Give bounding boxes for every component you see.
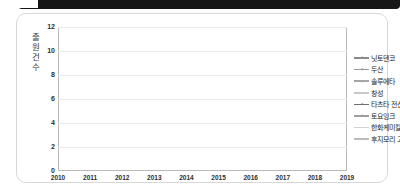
- legend-item-3[interactable]: 솔루에타: [354, 75, 400, 87]
- y-axis-tick-label: 8: [37, 71, 55, 78]
- legend-item-8[interactable]: 후지모리 고교: [354, 133, 400, 145]
- legend-marker-diamond-icon: [360, 55, 365, 60]
- x-axis-tick-label: 2012: [107, 174, 137, 181]
- legend-swatch: [354, 53, 369, 62]
- page-edge-bar-notch: [18, 0, 38, 8]
- legend-item-1[interactable]: 닛토덴코: [354, 52, 400, 64]
- legend-label: 솔루에타: [371, 76, 395, 86]
- x-axis-tick-label: 2018: [300, 174, 330, 181]
- chart-legend: 닛토덴코두산솔루에타창성타츠타 전선토요잉크한화케미칼후지모리 고교: [354, 52, 400, 145]
- legend-item-7[interactable]: 한화케미칼: [354, 122, 400, 134]
- legend-swatch: [354, 123, 369, 132]
- y-axis-tick-label: 6: [37, 95, 55, 102]
- plot-area: [58, 27, 347, 171]
- legend-swatch: [354, 100, 369, 109]
- legend-swatch: [354, 65, 369, 74]
- legend-line: [354, 127, 369, 129]
- legend-item-6[interactable]: 토요잉크: [354, 110, 400, 122]
- legend-label: 닛토덴코: [371, 53, 395, 63]
- legend-item-4[interactable]: 창성: [354, 87, 400, 99]
- y-axis-tick-label: 0: [37, 167, 55, 174]
- legend-swatch: [354, 134, 369, 143]
- legend-swatch: [354, 88, 369, 97]
- line-chart-figure: 출원건수 024681012 2010201120122013201420152…: [17, 14, 389, 184]
- gridline: [58, 99, 347, 100]
- screenshot-root: 출원건수 024681012 2010201120122013201420152…: [0, 0, 400, 194]
- legend-label: 토요잉크: [371, 111, 395, 121]
- legend-marker-circle-icon: [360, 102, 365, 107]
- y-axis-tick-label: 2: [37, 143, 55, 150]
- legend-swatch: [354, 111, 369, 120]
- x-axis-tick-label: 2011: [75, 174, 105, 181]
- y-axis-tick-label: 10: [37, 47, 55, 54]
- x-axis-tick-label: 2013: [139, 174, 169, 181]
- gridline: [58, 123, 347, 124]
- y-axis-tick-label: 12: [37, 23, 55, 30]
- gridline: [58, 51, 347, 52]
- x-axis-tick-label: 2017: [268, 174, 298, 181]
- legend-marker-square-icon: [360, 67, 365, 72]
- legend-label: 한화케미칼: [371, 122, 400, 132]
- legend-item-2[interactable]: 두산: [354, 64, 400, 76]
- legend-marker-cross-icon: [360, 113, 365, 118]
- legend-swatch: [354, 76, 369, 85]
- legend-item-5[interactable]: 타츠타 전선: [354, 98, 400, 110]
- y-axis-tick-label: 4: [37, 119, 55, 126]
- legend-label: 후지모리 고교: [371, 134, 400, 144]
- legend-marker-triangle-icon: [360, 79, 365, 84]
- legend-label: 창성: [371, 88, 383, 98]
- chart-card: 출원건수 024681012 2010201120122013201420152…: [16, 13, 388, 183]
- x-axis-tick-label: 2019: [332, 174, 362, 181]
- page-edge-bar: [18, 0, 400, 9]
- gridline: [58, 75, 347, 76]
- legend-line: [354, 92, 369, 94]
- gridline: [58, 27, 347, 28]
- gridline: [58, 147, 347, 148]
- x-axis-tick-label: 2016: [236, 174, 266, 181]
- x-axis-tick-label: 2014: [171, 174, 201, 181]
- legend-label: 타츠타 전선: [371, 99, 400, 109]
- legend-label: 두산: [371, 64, 383, 74]
- x-axis-tick-label: 2015: [204, 174, 234, 181]
- legend-line: [354, 138, 369, 140]
- x-axis-tick-label: 2010: [43, 174, 73, 181]
